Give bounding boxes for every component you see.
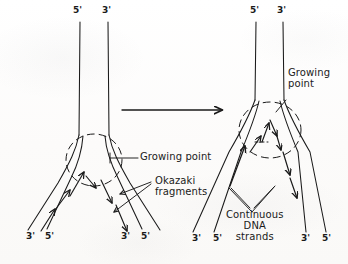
left-top-label-3prime: 3': [102, 6, 111, 16]
left-fork-inner-right: [105, 136, 142, 229]
left-panel-group: [28, 22, 160, 231]
right-parent-strand-5prime: [255, 22, 256, 100]
left-parent-strand-3prime: [108, 22, 109, 135]
okazaki-arrow-4: [86, 176, 96, 188]
continuous-arrow-right: [290, 178, 297, 198]
okazaki-fragments-label-line2: fragments: [155, 187, 207, 198]
okazaki-arrow-2: [55, 190, 70, 210]
right-arrow-up-1: [262, 123, 269, 142]
right-growing-point-label: Growing point: [288, 68, 330, 90]
continuous-dna-strands-label-line3: strands: [226, 232, 283, 243]
left-bottom-label-3prime-b: 3': [121, 232, 130, 242]
right-bottom-label-5prime-b: 5': [322, 234, 331, 244]
left-fork-wall-right: [109, 135, 160, 230]
left-bottom-label-3prime-a: 3': [26, 232, 35, 242]
okazaki-fragments-label: Okazaki fragments: [155, 176, 207, 198]
right-bottom-label-5prime-a: 5': [213, 234, 222, 244]
continuous-arrow-left: [230, 146, 245, 186]
right-growing-point-leader: [276, 100, 286, 112]
right-panel-group: [193, 22, 326, 232]
left-top-label-5prime: 5': [73, 6, 82, 16]
left-bottom-label-5prime-a: 5': [45, 232, 54, 242]
right-growing-point-circle: [239, 102, 301, 158]
diagram-canvas: [0, 0, 348, 264]
right-top-label-5prime: 5': [250, 6, 259, 16]
right-arrow-up-2: [250, 136, 261, 152]
right-growing-point-label-line2: point: [288, 79, 330, 90]
continuous-dna-strands-label: Continuous DNA strands: [226, 210, 283, 242]
left-growing-point-circle: [66, 134, 122, 186]
right-arrow-down-3: [283, 152, 290, 175]
right-top-label-3prime: 3': [277, 6, 286, 16]
continuous-leader-left: [231, 188, 250, 208]
figure-root: 5' 3' 3' 5' 3' 5' Growing point Okazaki …: [0, 0, 348, 264]
continuous-leader-right: [254, 187, 274, 208]
right-arrow-down-2: [276, 133, 281, 150]
right-fork-wall-right: [284, 100, 326, 232]
left-parent-strand-5prime: [79, 22, 80, 135]
left-bottom-label-5prime-b: 5': [141, 232, 150, 242]
right-parent-strand-3prime: [283, 22, 284, 100]
continuous-dna-strands-label-line2: DNA: [226, 221, 283, 232]
left-growing-point-label: Growing point: [140, 152, 211, 163]
right-bottom-label-3prime-b: 3': [301, 234, 310, 244]
right-bottom-label-3prime-a: 3': [192, 234, 201, 244]
